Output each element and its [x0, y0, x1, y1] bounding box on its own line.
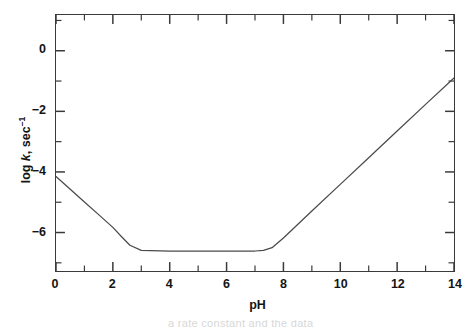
y-axis-title-italic-k: k — [19, 154, 33, 161]
x-axis-tick-label: 12 — [378, 277, 418, 291]
y-axis-tick-marks-right — [445, 20, 454, 262]
x-axis-tick-label: 6 — [206, 277, 246, 291]
x-axis-tick-label: 0 — [35, 277, 75, 291]
y-axis-tick-label: 0 — [6, 42, 46, 56]
x-axis-tick-label: 2 — [92, 277, 132, 291]
cut-off-caption-strip: a rate constant and the data — [0, 320, 469, 330]
y-axis-tick-marks-left — [56, 20, 65, 262]
cut-off-caption-text: a rate constant and the data — [168, 320, 313, 329]
figure: 02468101214 0−2−4−6 pH log k, sec−1 a ra… — [0, 0, 469, 330]
x-axis-tick-label: 10 — [321, 277, 361, 291]
x-axis-tick-label: 4 — [149, 277, 189, 291]
y-axis-title: log k, sec−1 — [19, 75, 33, 225]
x-axis-tick-marks-bottom — [56, 262, 454, 271]
data-curve-log-k — [56, 78, 454, 251]
plot-svg — [56, 15, 454, 271]
x-axis-tick-label: 14 — [435, 277, 469, 291]
x-axis-title: pH — [0, 298, 469, 312]
plot-frame — [55, 14, 455, 272]
y-axis-tick-label: −6 — [6, 225, 46, 239]
x-axis-tick-label: 8 — [264, 277, 304, 291]
x-axis-title-text: pH — [249, 298, 266, 312]
y-axis-title-superscript: −1 — [17, 117, 27, 127]
x-axis-tick-marks-top — [56, 15, 454, 24]
y-axis-title-suffix: , sec — [19, 126, 33, 154]
y-axis-title-prefix: log — [19, 161, 33, 183]
